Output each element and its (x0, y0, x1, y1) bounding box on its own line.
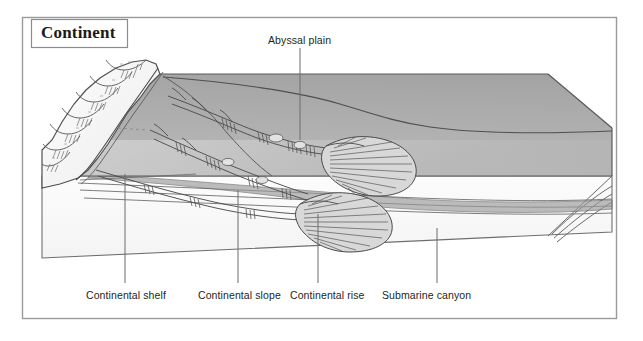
label-continental-shelf: Continental shelf (86, 289, 166, 301)
label-submarine-canyon: Submarine canyon (382, 289, 471, 301)
continent-title: Continent (41, 23, 116, 43)
label-continental-rise: Continental rise (290, 289, 365, 301)
label-abyssal-plain: Abyssal plain (268, 34, 331, 46)
label-continental-slope: Continental slope (198, 289, 281, 301)
figure-root: Continent Abyssal plain Continental shel… (0, 0, 643, 341)
